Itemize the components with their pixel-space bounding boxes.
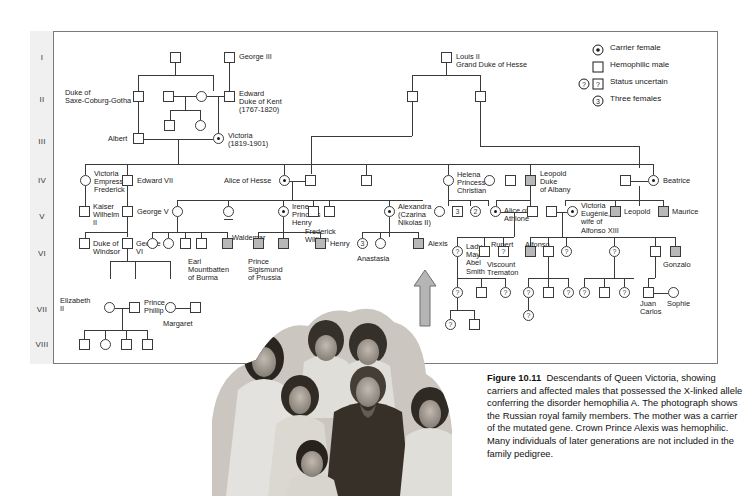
line-gen4-drop-helena [448, 164, 449, 175]
line-juan-d1 [648, 278, 649, 287]
line-g6f5-d3 [624, 278, 625, 287]
line-george-vi-drop [127, 249, 128, 261]
person-elizabeth-ii [104, 302, 115, 313]
line-george-vi-sib-bar [110, 261, 170, 262]
label-george-v: George V [137, 208, 169, 216]
person-louis-ii [441, 52, 452, 63]
person-gonzalo [670, 246, 681, 257]
person-leopold-gen5 [610, 206, 621, 217]
line-alexandra-drop [389, 217, 390, 237]
line-gen1-drop-left [138, 75, 139, 91]
label-edward-vii: Edward VII [137, 177, 173, 185]
line-g8-d4 [147, 330, 148, 339]
label-kaiser-wilhelm-ii: Kaiser Wilhelm II [93, 203, 119, 228]
person-duke-saxe-coburg-gotha [133, 91, 144, 102]
line-gen2-sib-bar [170, 110, 200, 111]
legend-label-status-uncertain: Status uncertain [610, 77, 668, 86]
line-eugenie-union-drop [562, 212, 563, 237]
mark-question-10: ? [524, 311, 533, 320]
line-eugenie-d5 [655, 237, 656, 246]
line-helena-d1 [470, 200, 471, 206]
mark-question-5: ? [453, 288, 462, 297]
person-gen2b-male [164, 120, 175, 131]
mark-question-6: ? [501, 288, 510, 297]
line-g6f5-d1 [584, 278, 585, 287]
person-gen5-mark-three: 3 [452, 206, 463, 217]
mark-question-9: ? [564, 288, 573, 297]
label-duke-saxe-coburg-gotha: Duke of Saxe-Coburg-Gotha [65, 89, 131, 105]
generation-bar [30, 31, 54, 364]
label-viscount-trematon: Viscount Trematon [487, 261, 518, 277]
line-eugenie-d4 [614, 237, 615, 246]
label-helena-princess-christian: Helena Princess Christian [457, 171, 486, 196]
person-gen8-female-1 [100, 339, 111, 350]
person-gen1-male-1 [170, 52, 181, 63]
person-athlone-spouse [527, 206, 538, 217]
line-gen4-drop-male-1 [366, 164, 367, 175]
line-helena-drop [448, 186, 449, 206]
person-alice-of-athlone [490, 206, 501, 217]
person-victoria-empress-frederick [80, 175, 91, 186]
person-henry [315, 238, 326, 249]
line-elizabeth-drop [122, 308, 123, 330]
line-eugenie-d6 [675, 237, 676, 246]
line-vef-drop [85, 186, 86, 206]
line-gen4-drop-alice [284, 164, 285, 175]
line-gen4-drop-leopold [530, 164, 531, 175]
person-gen6-female-4: ? [561, 246, 572, 257]
line-kent-to-victoria [218, 96, 219, 136]
label-elizabeth-ii: Elizabeth II [60, 297, 90, 313]
label-prince-sigismund: Prince Sigismund of Prussia [248, 258, 283, 283]
legend: Carrier female Hemophilic male ? ? Statu… [584, 40, 710, 108]
legend-label-hemophilic-male: Hemophilic male [610, 60, 669, 69]
legend-label-carrier-female: Carrier female [610, 43, 661, 52]
person-gen6-male-3 [543, 246, 554, 257]
line-to-gen4-male [311, 136, 312, 174]
label-juan-carlos: Juan Carlos [640, 300, 661, 316]
line-lady-may-drop [457, 257, 458, 278]
generation-label-7: VII [30, 305, 54, 314]
mark-two: 2 [471, 207, 480, 216]
label-alexis: Alexis [428, 240, 448, 248]
label-henry: Henry [330, 240, 350, 248]
label-earl-mountbatten: Earl Mountbatten of Burma [188, 258, 229, 283]
line-waldemar-mate-tick [224, 219, 233, 220]
line-gen4-sib-bar [85, 164, 653, 165]
person-gen2-male-2 [163, 91, 174, 102]
mark-question-4: ? [610, 247, 619, 256]
line-eugenie-sib-bar [530, 237, 675, 238]
label-alice-of-hesse: Alice of Hesse [224, 177, 271, 185]
line-beatrice-d1 [565, 200, 566, 206]
person-gen7-male-2 [543, 287, 554, 298]
person-margaret-spouse [190, 302, 201, 313]
person-gen5-female-2 [223, 206, 234, 217]
person-gen6-male-1 [180, 238, 191, 249]
label-alexandra: Alexandra (Czarina Nikolas II) [398, 203, 431, 228]
person-george-vi [122, 238, 133, 249]
person-gen6-female-5: ? [609, 246, 620, 257]
line-george-v-sib-bar [85, 232, 127, 233]
generation-label-3: III [30, 137, 54, 146]
mark-question-1: ? [453, 247, 462, 256]
person-gen7-male-1 [476, 287, 487, 298]
person-rupert [479, 246, 490, 257]
person-helena-princess-christian [443, 175, 454, 186]
person-gen6-male-2 [278, 238, 289, 249]
line-gen2-drop-1 [185, 96, 186, 110]
line-gen2-drop-left [170, 110, 171, 120]
person-margaret [165, 302, 176, 313]
person-george-iii [224, 52, 235, 63]
person-gen4-male-1 [361, 175, 372, 186]
person-albert [133, 133, 144, 144]
line-gen2-drop-right [200, 110, 201, 120]
person-gen5-mark-two: 2 [470, 206, 481, 217]
person-victoria-eugenie [567, 206, 578, 217]
line-gvi-d1 [110, 261, 111, 279]
person-gen6-male-4 [650, 246, 661, 257]
line-george-v-drop [127, 217, 128, 237]
line-helena-sib-bar [448, 200, 488, 201]
line-alf-d2 [548, 278, 549, 287]
label-albert: Albert [108, 135, 127, 143]
label-duke-of-windsor: Duke of Windsor [93, 240, 120, 256]
line-gvi-d2 [135, 261, 136, 279]
